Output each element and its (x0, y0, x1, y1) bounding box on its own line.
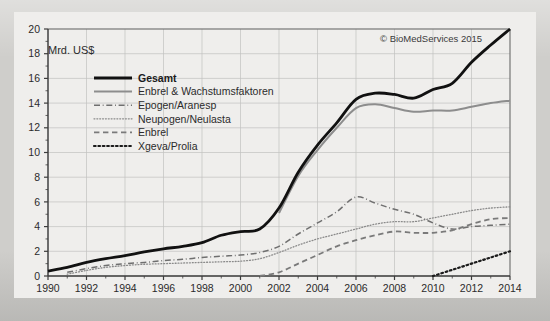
y-tick-label: 8 (34, 171, 40, 183)
y-tick-label: 0 (34, 270, 40, 282)
chart-plot-area: 02468101214161820 1990199219941996199820… (14, 12, 536, 298)
x-tick-label: 2010 (421, 282, 445, 294)
chart-card: 02468101214161820 1990199219941996199820… (14, 12, 536, 298)
copyright-label: © BioMedServices 2015 (380, 33, 482, 44)
y-tick-label: 16 (28, 72, 40, 84)
unit-label: Mrd. US$ (48, 44, 94, 56)
y-tick-label: 10 (28, 146, 40, 158)
x-tick-label: 2006 (344, 282, 368, 294)
x-tick-label: 2014 (498, 282, 522, 294)
x-tick-label: 2008 (383, 282, 407, 294)
y-tick-label: 18 (28, 47, 40, 59)
x-tick-label: 1990 (36, 282, 60, 294)
x-tick-label: 1994 (113, 282, 137, 294)
x-tick-label: 2002 (267, 282, 291, 294)
x-tick-label: 2004 (306, 282, 330, 294)
legend-label: Epogen/Aranesp (138, 99, 216, 111)
line-chart: 02468101214161820 1990199219941996199820… (14, 12, 536, 298)
x-tick-label: 1998 (190, 282, 214, 294)
legend-label: Neupogen/Neulasta (138, 113, 231, 125)
legend-label: Gesamt (138, 72, 177, 84)
y-tick-label: 20 (28, 23, 40, 35)
y-tick-label: 2 (34, 245, 40, 257)
y-tick-label: 14 (28, 97, 40, 109)
page-background: 02468101214161820 1990199219941996199820… (0, 0, 550, 321)
legend-label: Enbrel & Wachstumsfaktoren (138, 85, 274, 97)
y-tick-label: 4 (34, 220, 40, 232)
x-tick-label: 1992 (75, 282, 99, 294)
x-tick-label: 1996 (152, 282, 176, 294)
x-tick-label: 2000 (229, 282, 253, 294)
y-tick-label: 6 (34, 196, 40, 208)
legend-label: Enbrel (138, 126, 168, 138)
y-tick-label: 12 (28, 121, 40, 133)
x-tick-label: 2012 (460, 282, 484, 294)
legend-label: Xgeva/Prolia (138, 140, 198, 152)
